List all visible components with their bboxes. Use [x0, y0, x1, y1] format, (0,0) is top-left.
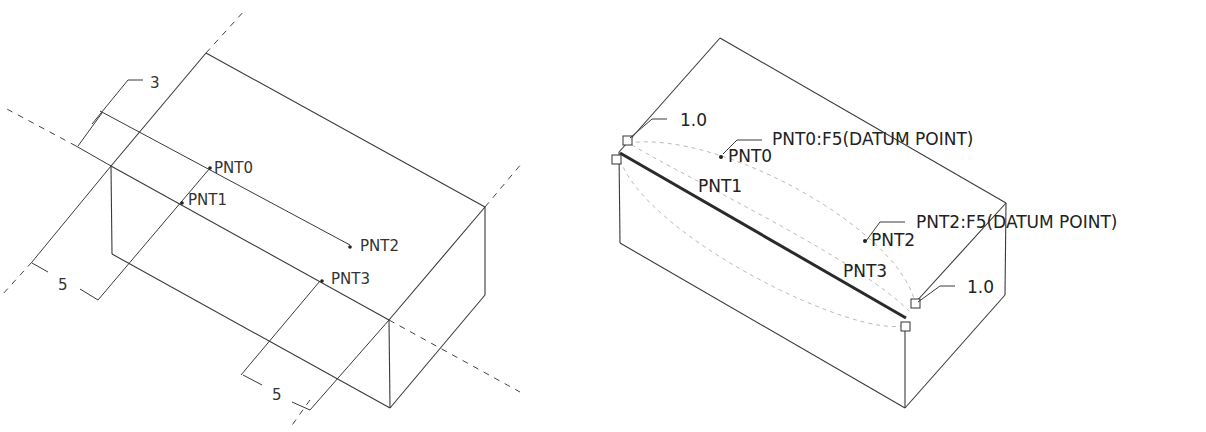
left-axis-dashed-lower-left	[2, 262, 32, 295]
preview-curve-middle	[632, 145, 910, 312]
svg-text:PNT2: PNT2	[871, 230, 915, 250]
dimension-5-bottom-value: 5	[272, 386, 282, 404]
svg-text:PNT2:F5(DATUM POINT): PNT2:F5(DATUM POINT)	[916, 212, 1118, 232]
dimension-5-left-value: 5	[58, 276, 68, 294]
svg-text:1.0: 1.0	[680, 110, 707, 130]
ratio-callout-bottom[interactable]: 1.0	[918, 277, 994, 302]
svg-text:PNT1: PNT1	[188, 191, 227, 209]
left-datum-point-pnt0[interactable]: PNT0	[208, 159, 253, 177]
svg-text:PNT0: PNT0	[728, 146, 772, 166]
right-datum-point-pnt2[interactable]: PNT2	[863, 230, 915, 250]
selected-edge[interactable]	[620, 153, 906, 318]
left-axis-dashed-left	[5, 108, 76, 146]
dimension-3-value: 3	[150, 74, 160, 92]
svg-text:PNT0: PNT0	[214, 159, 253, 177]
left-datum-point-pnt2[interactable]: PNT2	[348, 237, 399, 255]
dimension-5-left[interactable]: 5	[32, 263, 98, 300]
left-axis-dashed-upper	[206, 10, 245, 53]
left-datum-point-pnt3[interactable]: PNT3	[320, 270, 370, 288]
right-datum-point-pnt0[interactable]: PNT0	[719, 146, 772, 166]
svg-text:PNT3: PNT3	[331, 270, 370, 288]
left-datum-point-pnt1[interactable]: PNT1	[180, 191, 227, 209]
svg-text:PNT2: PNT2	[360, 237, 399, 255]
right-datum-point-pnt3[interactable]: PNT3	[843, 261, 887, 281]
right-view: 1.0 1.0 PNT0:F5(DATUM POINT) PNT2:F5(DAT…	[612, 38, 1118, 408]
drag-handle-top-lower[interactable]	[612, 155, 621, 164]
right-datum-point-pnt1[interactable]: PNT1	[698, 176, 742, 196]
svg-text:PNT3: PNT3	[843, 261, 887, 281]
left-axis-dashed-right-upper	[485, 163, 522, 207]
drag-handle-bottom-upper[interactable]	[911, 299, 920, 308]
left-box-edges	[111, 53, 485, 408]
svg-text:PNT0:F5(DATUM POINT): PNT0:F5(DATUM POINT)	[772, 129, 974, 149]
svg-text:1.0: 1.0	[967, 277, 994, 297]
svg-text:PNT1: PNT1	[698, 176, 742, 196]
preview-curve-lower	[620, 160, 905, 327]
dimension-3[interactable]: 3	[78, 74, 160, 146]
left-axis-dashed-lower-right	[290, 400, 310, 428]
left-view: 3 5 5 PNT0 PNT1 PNT2 PNT3	[2, 10, 522, 428]
dimension-5-bottom[interactable]: 5	[243, 375, 310, 410]
ratio-callout-top[interactable]: 1.0	[630, 110, 707, 138]
drag-handle-bottom-lower[interactable]	[901, 322, 910, 331]
drawing-canvas: 3 5 5 PNT0 PNT1 PNT2 PNT3	[0, 0, 1206, 432]
